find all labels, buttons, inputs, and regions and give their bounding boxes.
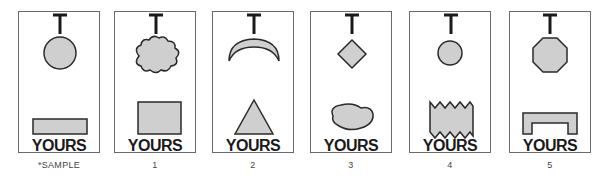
diamond-icon	[338, 40, 366, 68]
yours-label: YOURS	[213, 138, 293, 154]
t-icon	[149, 15, 163, 34]
card-shapes	[115, 12, 197, 154]
yours-label: YOURS	[510, 138, 590, 154]
t-icon	[53, 15, 67, 34]
card-sample[interactable]: YOURS	[18, 11, 100, 153]
card-shapes	[19, 12, 101, 154]
card-shapes	[213, 12, 295, 154]
t-icon	[345, 15, 359, 34]
caption-2: 2	[212, 160, 294, 170]
caption-4: 4	[409, 160, 491, 170]
caption-sample: *SAMPLE	[18, 160, 100, 170]
card-2[interactable]: YOURS	[212, 11, 294, 153]
crescent-icon	[229, 39, 279, 61]
t-icon	[247, 15, 261, 34]
bracket-icon	[523, 113, 577, 134]
caption-1: 1	[114, 160, 196, 170]
octagon-icon	[533, 38, 567, 72]
card-3[interactable]: YOURS	[310, 11, 392, 153]
yours-label: YOURS	[410, 138, 490, 154]
caption-3: 3	[310, 160, 392, 170]
yours-label: YOURS	[311, 138, 391, 154]
yours-label: YOURS	[19, 138, 99, 154]
caption-5: 5	[509, 160, 591, 170]
circle-icon	[44, 37, 76, 69]
blob-icon	[332, 104, 373, 130]
yours-label: YOURS	[115, 138, 195, 154]
t-icon	[444, 15, 458, 34]
card-1[interactable]: YOURS	[114, 11, 196, 153]
rectangle-icon	[138, 102, 181, 134]
triangle-icon	[235, 100, 273, 134]
wide-rectangle-icon	[33, 119, 87, 134]
t-icon	[543, 15, 557, 34]
card-4[interactable]: YOURS	[409, 11, 491, 153]
card-5[interactable]: YOURS	[509, 11, 591, 153]
zigzag-rectangle-icon	[430, 102, 473, 138]
card-shapes	[311, 12, 393, 154]
small-circle-icon	[438, 41, 462, 65]
card-shapes	[410, 12, 492, 154]
cloud-icon	[136, 36, 178, 72]
card-shapes	[510, 12, 592, 154]
